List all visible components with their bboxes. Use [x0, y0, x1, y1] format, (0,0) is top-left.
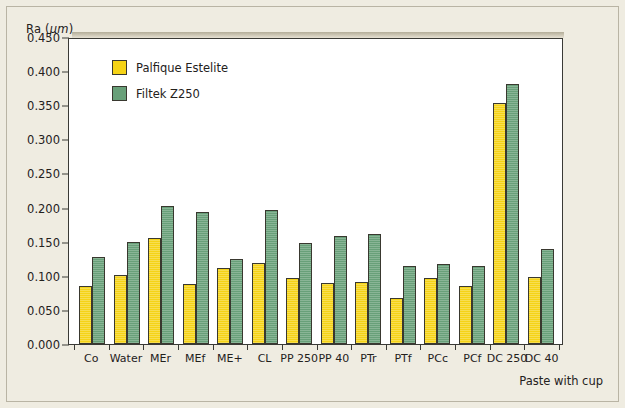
- y-tick-label: 0.450: [27, 31, 60, 45]
- x-tick-label: PCf: [463, 352, 481, 365]
- x-tick-label: MEr: [150, 352, 171, 365]
- bar: [161, 206, 174, 344]
- x-tick-mark: [143, 345, 144, 350]
- bar-group: [317, 39, 352, 344]
- x-tick-mark: [351, 345, 352, 350]
- bar: [217, 268, 230, 344]
- bar: [148, 238, 161, 344]
- bar-group: [524, 39, 559, 344]
- x-tick-mark: [178, 345, 179, 350]
- chart-legend: Palfique EsteliteFiltek Z250: [112, 60, 228, 112]
- x-tick-label: MEf: [185, 352, 205, 365]
- x-tick-label: Water: [110, 352, 143, 365]
- x-tick-mark: [455, 345, 456, 350]
- bar: [472, 266, 485, 344]
- bar: [265, 210, 278, 344]
- legend-label: Palfique Estelite: [136, 61, 228, 75]
- bar: [230, 259, 243, 344]
- x-tick-mark: [213, 345, 214, 350]
- x-tick-mark: [109, 345, 110, 350]
- bar: [183, 284, 196, 344]
- x-tick-mark: [74, 345, 75, 350]
- bar-group: [455, 39, 490, 344]
- y-tick-label: 0.150: [27, 236, 60, 250]
- bar-group: [248, 39, 283, 344]
- legend-label: Filtek Z250: [136, 87, 200, 101]
- legend-swatch: [112, 86, 127, 101]
- bar: [299, 243, 312, 344]
- bar: [334, 236, 347, 344]
- y-tick-label: 0.250: [27, 167, 60, 181]
- bar: [437, 264, 450, 344]
- bar-group: [75, 39, 110, 344]
- legend-item: Palfique Estelite: [112, 60, 228, 75]
- bar: [368, 234, 381, 344]
- bar: [541, 249, 554, 345]
- x-tick-mark: [317, 345, 318, 350]
- y-tick-label: 0.050: [27, 304, 60, 318]
- y-tick-label: 0.300: [27, 133, 60, 147]
- y-tick-label: 0.000: [27, 338, 60, 352]
- bar: [252, 263, 265, 344]
- bar: [506, 84, 519, 344]
- x-tick-label: PP 40: [318, 352, 349, 365]
- y-tick-label: 0.350: [27, 99, 60, 113]
- chart-figure: Ra (μm) 0.4500.4000.3500.3000.2500.2000.…: [0, 0, 625, 408]
- bar: [114, 275, 127, 344]
- x-tick-label: PCc: [428, 352, 448, 365]
- x-axis-title: Paste with cup: [519, 374, 603, 388]
- bar: [286, 278, 299, 344]
- bar: [196, 212, 209, 344]
- bar-group: [386, 39, 421, 344]
- x-tick-mark: [386, 345, 387, 350]
- x-tick-mark: [559, 345, 560, 350]
- y-tick-label: 0.100: [27, 270, 60, 284]
- x-tick-mark: [282, 345, 283, 350]
- y-tick-label: 0.200: [27, 202, 60, 216]
- x-tick-label: DC 250: [487, 352, 528, 365]
- y-axis: 0.4500.4000.3500.3000.2500.2000.1500.100…: [0, 0, 68, 408]
- bar: [403, 266, 416, 344]
- bar-group: [489, 39, 524, 344]
- x-tick-mark: [490, 345, 491, 350]
- bar: [424, 278, 437, 344]
- y-tick-label: 0.400: [27, 65, 60, 79]
- bar: [459, 286, 472, 344]
- bar: [79, 286, 92, 344]
- bar: [493, 103, 506, 345]
- bar: [355, 282, 368, 344]
- x-tick-label: PTr: [360, 352, 376, 365]
- x-tick-label: CL: [258, 352, 272, 365]
- x-tick-mark: [247, 345, 248, 350]
- bar: [127, 242, 140, 344]
- bar-group: [282, 39, 317, 344]
- x-tick-label: PTf: [394, 352, 411, 365]
- x-tick-label: ME+: [217, 352, 243, 365]
- bar-group: [351, 39, 386, 344]
- bar-group: [420, 39, 455, 344]
- legend-swatch: [112, 60, 127, 75]
- x-tick-mark: [420, 345, 421, 350]
- legend-item: Filtek Z250: [112, 86, 228, 101]
- x-tick-label: Co: [84, 352, 98, 365]
- bar: [390, 298, 403, 344]
- bar: [321, 283, 334, 344]
- bar: [92, 257, 105, 344]
- x-tick-mark: [524, 345, 525, 350]
- x-tick-label: DC 40: [525, 352, 559, 365]
- bar: [528, 277, 541, 344]
- x-tick-label: PP 250: [280, 352, 318, 365]
